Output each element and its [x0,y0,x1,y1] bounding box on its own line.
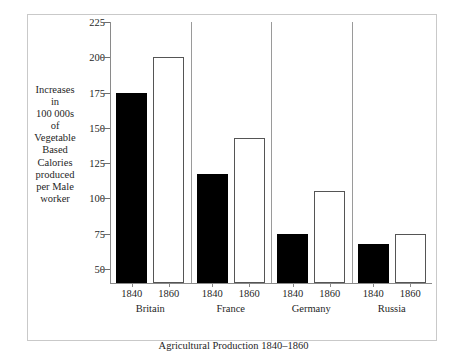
x-tick-mark [132,284,133,287]
x-tick-mark [330,284,331,287]
y-tick-mark [101,22,110,23]
y-tick-mark [101,57,110,58]
x-tick-mark [212,284,213,287]
y-tick-mark [101,128,110,129]
x-tick-mark [373,284,374,287]
y-tick-mark [101,93,110,94]
group-separator [352,22,353,283]
group-separator [271,22,272,283]
x-axis-group-label-germany: Germany [292,303,331,314]
x-tick-label-year: 1860 [239,288,260,299]
x-tick-label-year: 1860 [158,288,179,299]
y-tick-mark [101,163,110,164]
x-tick-label-year: 1840 [202,288,223,299]
bar-france-1840 [197,174,228,283]
group-separator [191,22,192,283]
x-tick-mark [249,284,250,287]
bar-germany-1860 [314,191,345,283]
bar-britain-1860 [153,57,184,283]
x-tick-mark [169,284,170,287]
plot-area [110,22,432,283]
bar-russia-1840 [358,244,389,284]
x-tick-mark [410,284,411,287]
bar-britain-1840 [116,93,147,283]
x-tick-label-year: 1860 [319,288,340,299]
x-tick-label-year: 1860 [400,288,421,299]
bar-russia-1860 [395,234,426,283]
chart-caption: Agricultural Production 1840–1860 [0,340,467,351]
x-tick-label-year: 1840 [282,288,303,299]
y-tick-mark [101,234,110,235]
x-axis-group-label-france: France [216,303,245,314]
chart-figure: Increasesin100 000sofVegetableBasedCalor… [0,0,467,364]
x-tick-label-year: 1840 [121,288,142,299]
x-tick-label-year: 1840 [363,288,384,299]
y-tick-mark [101,198,110,199]
bar-france-1860 [234,138,265,283]
y-axis-tick-labels: 2252001751501251007550 [79,22,105,349]
x-axis-group-label-russia: Russia [378,303,406,314]
y-tick-mark [101,269,110,270]
x-axis-labels: 18401860Britain18401860France18401860Ger… [110,284,432,324]
bar-germany-1840 [277,234,308,283]
x-axis-group-label-britain: Britain [136,303,165,314]
x-tick-mark [293,284,294,287]
